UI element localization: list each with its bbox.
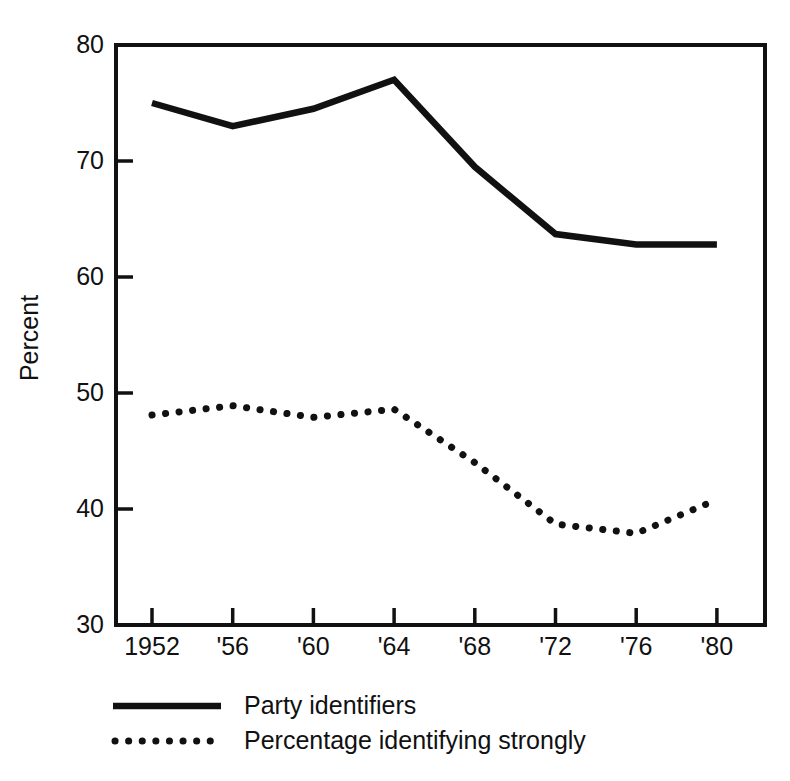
y-axis-ticks [116,161,133,509]
y-axis-title: Percent [15,295,43,381]
x-axis-tick-label: '56 [216,632,249,660]
y-axis-tick-label: 40 [76,494,104,522]
x-axis-tick-label: '68 [459,632,492,660]
chart-legend: Party identifiers Percentage identifying… [113,691,586,754]
x-axis-ticks [152,608,717,625]
y-axis-tick-label: 30 [76,610,104,638]
legend-label-party-identifiers: Party identifiers [244,691,416,719]
x-axis-tick-labels: 1952'56'60'64'68'72'76'80 [124,632,733,660]
x-axis-tick-label: '64 [378,632,411,660]
x-axis-tick-label: '72 [539,632,572,660]
y-axis-tick-label: 50 [76,378,104,406]
series-line-percentage-identifying-strongly [152,406,717,534]
x-axis-tick-label: '80 [701,632,734,660]
x-axis-tick-label: '60 [297,632,330,660]
line-chart-figure: 304050607080 1952'56'60'64'68'72'76'80 P… [0,0,790,781]
y-axis-tick-label: 60 [76,262,104,290]
legend-label-percentage-identifying-strongly: Percentage identifying strongly [244,726,586,754]
y-axis-tick-labels: 304050607080 [76,30,104,638]
x-axis-tick-label: 1952 [124,632,180,660]
y-axis-tick-label: 80 [76,30,104,58]
series-line-party-identifiers [152,80,717,245]
y-axis-tick-label: 70 [76,146,104,174]
x-axis-tick-label: '76 [620,632,653,660]
